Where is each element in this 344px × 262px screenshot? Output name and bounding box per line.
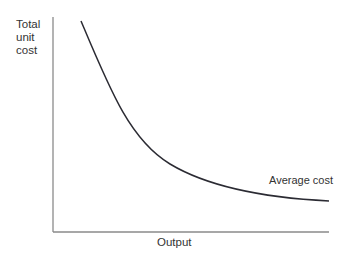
y-axis-label: Total unit cost [16,18,40,57]
chart-canvas [0,0,344,262]
y-axis-label-line: Total [16,18,40,31]
y-axis-label-line: cost [16,44,40,57]
average-cost-label: Average cost [269,174,333,186]
x-axis-label: Output [157,236,192,248]
y-axis-label-line: unit [16,31,40,44]
